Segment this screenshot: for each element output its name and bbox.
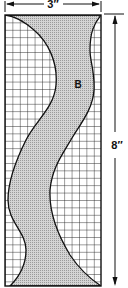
width-dimension: 3″ [5,0,101,12]
arrow-up-icon [113,15,118,24]
pattern-diagram: 3″ 8″ B [0,0,128,288]
height-dimension: 8″ [104,14,124,286]
grid-board [5,15,101,286]
arrow-left-icon [6,2,14,7]
arrow-right-icon [92,2,100,7]
height-label: 8″ [111,139,123,151]
arrow-down-icon [113,277,118,286]
width-label: 3″ [47,0,59,10]
piece-label: B [74,79,81,90]
